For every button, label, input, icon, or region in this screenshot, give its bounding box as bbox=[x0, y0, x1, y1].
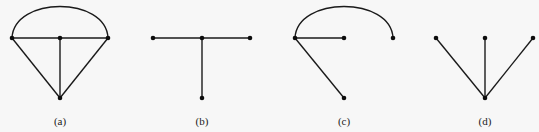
node-d1 bbox=[434, 36, 439, 41]
node-b1 bbox=[151, 36, 156, 41]
node-c4 bbox=[342, 96, 347, 101]
node-c1 bbox=[293, 36, 298, 41]
panel-b-graph bbox=[151, 36, 253, 101]
node-d2 bbox=[483, 36, 488, 41]
panel-a-graph bbox=[10, 7, 111, 101]
node-a4 bbox=[58, 96, 63, 101]
edge-c1-c4 bbox=[295, 38, 344, 98]
node-a3 bbox=[106, 36, 111, 41]
edge-c-arc bbox=[295, 7, 393, 39]
panel-b-label: (b) bbox=[196, 115, 209, 127]
graph-figure bbox=[0, 0, 539, 132]
node-a1 bbox=[10, 36, 15, 41]
edge-d1-d4 bbox=[436, 38, 485, 98]
node-c2 bbox=[342, 36, 347, 41]
edge-a1-a4 bbox=[12, 38, 60, 98]
edge-a-arc bbox=[12, 7, 108, 39]
node-d4 bbox=[483, 96, 488, 101]
edge-d3-d4 bbox=[485, 38, 533, 98]
edge-a3-a4 bbox=[60, 38, 108, 98]
panel-d-graph bbox=[434, 36, 536, 101]
node-b3 bbox=[248, 36, 253, 41]
node-a2 bbox=[58, 36, 63, 41]
panel-d-label: (d) bbox=[479, 115, 492, 127]
panel-c-graph bbox=[293, 7, 396, 101]
panel-c-label: (c) bbox=[338, 115, 350, 127]
node-b2 bbox=[200, 36, 205, 41]
panel-a-label: (a) bbox=[54, 115, 66, 127]
node-b4 bbox=[200, 96, 205, 101]
node-d3 bbox=[531, 36, 536, 41]
node-c3 bbox=[391, 36, 396, 41]
